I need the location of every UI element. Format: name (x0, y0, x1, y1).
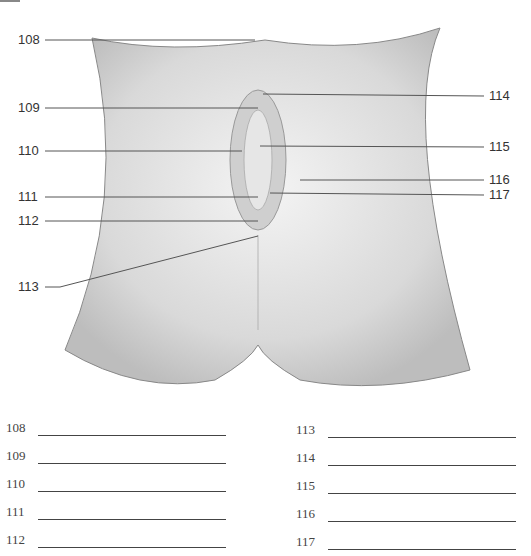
answer-row-109[interactable]: 109 (6, 444, 226, 464)
callout-116: 116 (489, 173, 510, 187)
answer-row-111[interactable]: 111 (6, 500, 226, 520)
callout-114: 114 (489, 89, 510, 103)
answer-row-116[interactable]: 116 (296, 502, 516, 522)
answer-row-117[interactable]: 117 (296, 530, 516, 550)
callout-113: 113 (18, 280, 39, 294)
answer-line[interactable] (38, 505, 226, 520)
answer-row-110[interactable]: 110 (6, 472, 226, 492)
answer-row-108[interactable]: 108 (6, 416, 226, 436)
callout-108: 108 (18, 33, 40, 47)
answer-line[interactable] (38, 533, 226, 548)
answer-line[interactable] (328, 507, 516, 522)
answer-row-112[interactable]: 112 (6, 528, 226, 548)
answer-row-113[interactable]: 113 (296, 418, 516, 438)
callout-109: 109 (18, 101, 40, 115)
answer-line[interactable] (38, 421, 226, 436)
answer-line[interactable] (328, 451, 516, 466)
callout-111: 111 (18, 190, 38, 204)
answer-line[interactable] (38, 477, 226, 492)
answer-line[interactable] (328, 423, 516, 438)
callout-117: 117 (489, 188, 510, 202)
answer-row-115[interactable]: 115 (296, 474, 516, 494)
answer-line[interactable] (38, 449, 226, 464)
answer-line[interactable] (328, 535, 516, 550)
answer-line[interactable] (328, 479, 516, 494)
callout-112: 112 (18, 214, 39, 228)
anatomy-figure: 108 109 110 111 112 113 114 115 116 117 (0, 0, 531, 400)
answer-row-114[interactable]: 114 (296, 446, 516, 466)
figure-illustration (0, 0, 531, 400)
callout-115: 115 (489, 140, 510, 154)
callout-110: 110 (18, 144, 39, 158)
